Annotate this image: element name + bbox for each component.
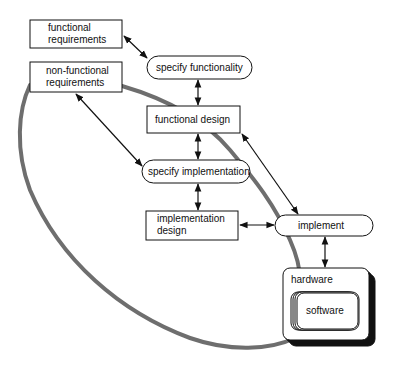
specify-implementation-label: specify implementation — [148, 166, 250, 178]
implementation-design-label: implementation design — [157, 213, 225, 237]
edge-nonfreq-specimpl — [76, 94, 142, 166]
specify-functionality-label: specify functionality — [156, 62, 243, 74]
non-functional-requirements-line2: requirements — [46, 77, 109, 89]
functional-requirements-line2: requirements — [48, 34, 106, 46]
functional-requirements-line1: functional — [48, 22, 106, 34]
hardware-label: hardware — [291, 274, 333, 286]
implementation-design-line1: implementation — [157, 213, 225, 225]
functional-requirements-label: functional requirements — [48, 22, 106, 46]
non-functional-requirements-line1: non-functional — [46, 65, 109, 77]
non-functional-requirements-label: non-functional requirements — [46, 65, 109, 89]
implement-label: implement — [298, 220, 344, 232]
software-label: software — [306, 305, 344, 317]
functional-design-label: functional design — [155, 114, 230, 126]
implementation-design-line2: design — [157, 225, 225, 237]
edge-freq-specfunc — [124, 36, 147, 58]
